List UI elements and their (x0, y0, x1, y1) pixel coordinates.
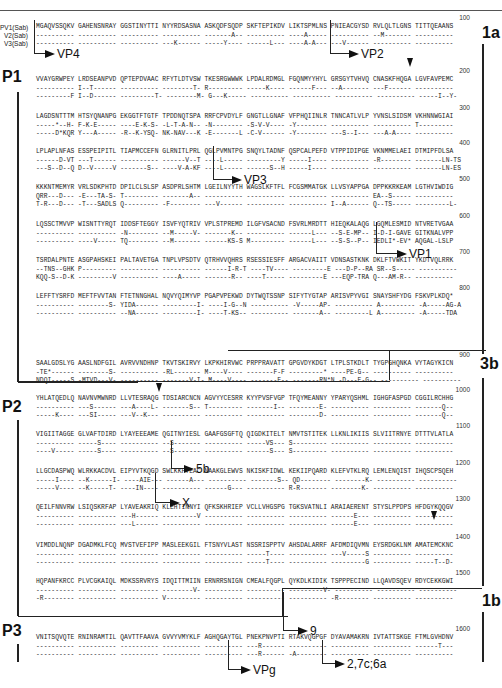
sequence-text: ---------- ---------- ---------- -------… (36, 551, 453, 560)
sequence-text: LAGDSNTTTM HTSYQNANPG EKGGTFTGTF TPDDNQT… (36, 113, 453, 122)
5b-site-line (171, 441, 172, 469)
sequence-text: YHLATQEDLQ NAVNVMWNRD LLVTESRAQG TDSIARC… (36, 395, 453, 404)
sequence-text: ---------- ---------- ---------- -------… (36, 32, 453, 41)
cleavage-label-x: X (182, 496, 190, 510)
residue-number: 800 (459, 284, 470, 291)
cleavage-label-9: 9 (310, 624, 317, 638)
residue-number: 900 (459, 351, 470, 358)
residue-number: 200 (459, 67, 470, 74)
sequence-text: ---------- I--T------ ---------- -------… (36, 85, 453, 94)
sequence-text: LEFFTYSRFD MEFTFVVTAN FTETNNGHAL NQVYQIM… (36, 293, 453, 302)
sequence-text: TSRDALPNTE ASGPAHSKEI PALTAVETGA TNPLVPS… (36, 257, 453, 266)
cleavage-label-vp1: VP1 (409, 247, 432, 261)
section-divider-3b-step (389, 350, 390, 380)
section-divider-3b-bottom (18, 381, 390, 382)
sequence-text: SAALGDSLYG AASLNDFGIL AVRVVNDHNP TKVTSKI… (36, 360, 453, 369)
sequence-text: -R-------- ---------- ---------- V------… (36, 595, 453, 604)
sequence-text: ---------- ---------- ---------- -------… (36, 559, 453, 568)
sequence-text: VIGIITAGGE GLVAFTDIRD LYAYEEEAME QGITNYI… (36, 431, 453, 440)
region-line-p3 (17, 644, 19, 662)
residue-number: 500 (459, 175, 470, 182)
residue-number: 400 (459, 139, 470, 146)
sequence-text: ---------- ---------- --NA------ -------… (36, 310, 457, 319)
sequence-text: KQQ-S--D-K ---------V ---------- ----A--… (36, 274, 453, 283)
cleavage-label-vp4: VP4 (57, 47, 80, 61)
sequence-text: -----V---- --K-----T- ----IN---- -------… (36, 485, 453, 494)
sequence-text: LPLAPLNFAS ESSPEIPITL TIAPMCCEFN GLRNITL… (36, 148, 453, 157)
x-site-line (155, 473, 156, 503)
sequence-text: T-R---D--- -T---SADLS Q--------- -F-----… (36, 201, 457, 210)
sequence-text: QRR---D--- -E---TA-S- T--------- -------… (36, 193, 453, 202)
2-7c-6a-arrow-icon (335, 660, 345, 668)
sequence-text: VVAYGRWPEY LRDSEANPVD QPTEPDVAAC RFYTLDT… (36, 76, 453, 85)
vp3-arrow-icon (232, 176, 242, 184)
vp1-arrow-shaft (376, 253, 398, 254)
sequence-text: ---------- ---------- ---------- -------… (36, 651, 453, 660)
sequence-text: ---------F I--D------ ---------T- ------… (36, 93, 457, 102)
residue-number: 1000 (456, 386, 470, 393)
residue-number: 1300 (456, 495, 470, 502)
9-arrow-icon (298, 627, 308, 635)
sequence-text: VIMDDLNQNP DGADMKLFCQ MVSTVEFIPP MASLEEK… (36, 542, 453, 551)
sequence-text: ----V----- -----S---- ---------- --S----… (36, 448, 453, 457)
9-arrow-shaft (283, 630, 299, 631)
sequence-text: ---------- ----V----- TQ-------- --M----… (36, 238, 453, 247)
vp2-site-line (330, 20, 331, 54)
vp3-arrow-shaft (213, 179, 233, 180)
region-line-p1 (17, 92, 19, 382)
vpg-arrow-icon (241, 666, 251, 674)
sequence-text: ---------- ---S------ ---A----L- -------… (36, 404, 453, 413)
residue-number: 1600 (456, 625, 470, 632)
section-divider-1b-bottom (18, 616, 288, 617)
cleavage-triangle-icon (407, 58, 413, 67)
sequence-text: ------D-VT ---T------ ---------- ------V… (36, 157, 461, 166)
vp2-arrow-icon (349, 50, 359, 58)
residue-number: 1400 (456, 533, 470, 540)
region-label-p2: P2 (2, 398, 22, 416)
section-line-1b (482, 612, 484, 662)
sequence-text: ---------- ---------- ---------- ---K---… (36, 40, 453, 49)
sequence-text: -----*--H- F-K-E----- ----E-K-S- -L-T-A-… (36, 122, 453, 131)
x-arrow-icon (170, 499, 180, 507)
row-label-v2: V2(Sab) (4, 32, 28, 39)
region-label-p3: P3 (2, 622, 22, 640)
sequence-text: QEILFNNVRW LSIQSKRFAP LYAVEAKRIQ KLEHTIN… (36, 504, 453, 513)
residue-number: 1500 (456, 569, 470, 576)
sequence-text: LQSSCTMVVP WISNTTYRQT IDDSFTEGGY ISVFYQT… (36, 221, 453, 230)
sequence-text: -----K---- ---SI----- ---V--K--- -------… (36, 412, 453, 421)
vpg-site-line (228, 640, 229, 670)
vpg-arrow-shaft (228, 669, 242, 670)
row-label-v3: V3(Sab) (4, 40, 28, 47)
sequence-text: VNITSQVQTE RNINRAMTIL QAVTTFAAVA GVVYVMY… (36, 634, 453, 643)
top-rule (0, 10, 502, 11)
section-label-3b: 3b (480, 355, 499, 373)
section-line-1a (482, 44, 484, 354)
sequence-text: ---------- ---------- -N-------- --M----… (36, 230, 453, 239)
section-divider-1b-top (282, 588, 482, 589)
vp4-arrow-icon (45, 50, 55, 58)
residue-number: 700 (459, 248, 470, 255)
residue-number: 1100 (456, 422, 470, 429)
sequence-text: --TNS--GHK P--------- ---------- -------… (36, 266, 457, 275)
sequence-text: ---------- --------S- YIDA------ -------… (36, 302, 461, 311)
region-line-p2 (17, 420, 19, 616)
2-7c-6a-site-line (322, 640, 323, 664)
sequence-text: ---------- ---------- ---H------ -------… (36, 513, 453, 522)
sequence-text: ---------- -----S---- ---------- --S----… (36, 440, 453, 449)
sequence-text: MGAQVSSQKV GAHENSNRAY GGSTINYTTI NYYRDSA… (36, 23, 453, 32)
cleavage-label-vpg: VPg (253, 663, 276, 677)
vp1-arrow-icon (397, 250, 407, 258)
vp4-site-line (34, 20, 35, 54)
sequence-text: -----I---- --K------I- ----AIE--- ------… (36, 477, 457, 486)
residue-number: 1200 (456, 459, 470, 466)
cleavage-triangle-icon (431, 511, 437, 520)
cleavage-label-5b: 5b (196, 462, 209, 476)
region-label-p1: P1 (2, 68, 22, 86)
section-label-1b: 1b (482, 592, 501, 610)
sequence-text: -TE*------ --------S- ---------- -RL----… (36, 369, 453, 378)
residue-number: 100 (459, 14, 470, 21)
2-7c-6a-arrow-shaft (322, 663, 336, 664)
5b-arrow-icon (184, 465, 194, 473)
9-site-line (283, 592, 284, 630)
vp3-site-line (213, 146, 214, 180)
